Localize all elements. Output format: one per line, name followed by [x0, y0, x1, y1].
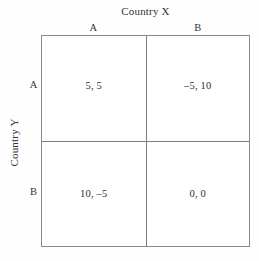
column-axis-title: Country X: [41, 5, 250, 18]
matrix-grid: 5, 5 –5, 10 10, –5 0, 0: [41, 35, 250, 247]
cell-row-b-col-a: 10, –5: [42, 141, 146, 246]
row-header-a: A: [26, 35, 41, 141]
row-header-b: B: [26, 141, 41, 247]
cell-row-b-col-b: 0, 0: [146, 141, 250, 246]
cell-row-a-col-b: –5, 10: [146, 36, 250, 141]
payoff-matrix-figure: Country X A B Country Y A B 5, 5 –5, 10 …: [0, 0, 259, 261]
row-header-column: A B: [26, 35, 41, 247]
column-header-b: B: [146, 21, 251, 35]
row-axis-title: Country Y: [8, 90, 21, 195]
column-header-row: A B: [41, 21, 250, 35]
cell-row-a-col-a: 5, 5: [42, 36, 146, 141]
column-header-a: A: [41, 21, 146, 35]
